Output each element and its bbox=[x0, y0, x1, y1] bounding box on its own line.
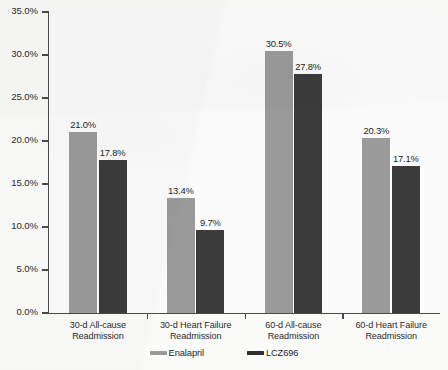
grouped-bar-chart: 0.0%5.0%10.0%15.0%20.0%25.0%30.0%35.0% 2… bbox=[0, 0, 448, 370]
bar-enalapril-1: 13.4% bbox=[167, 198, 195, 313]
bar-lcz696-3: 17.1% bbox=[392, 166, 420, 313]
y-axis-tick-label: 10.0% bbox=[11, 220, 38, 231]
y-axis-tick-label: 0.0% bbox=[17, 306, 38, 317]
legend-item-lcz696[interactable]: LCZ696 bbox=[247, 348, 298, 358]
x-axis-category-label: 30-d Heart FailureReadmission bbox=[147, 320, 245, 343]
legend-item-label: LCZ696 bbox=[266, 348, 298, 358]
x-axis-separator-tick bbox=[342, 313, 343, 319]
bar-value-label: 20.3% bbox=[363, 125, 389, 136]
bar-value-label: 17.8% bbox=[100, 147, 126, 158]
bar-value-label: 13.4% bbox=[168, 185, 194, 196]
y-axis-tick-label: 20.0% bbox=[11, 134, 38, 145]
x-axis-category-label: 60-d All-causeReadmission bbox=[245, 320, 343, 343]
bar-value-label: 30.5% bbox=[266, 38, 292, 49]
bar-lcz696-2: 27.8% bbox=[294, 74, 322, 313]
bar-enalapril-2: 30.5% bbox=[265, 51, 293, 313]
y-axis-tick-label: 15.0% bbox=[11, 177, 38, 188]
x-axis-category-label-line: Readmission bbox=[245, 331, 343, 342]
x-axis-separator-tick bbox=[147, 313, 148, 319]
x-axis-separator-tick bbox=[245, 313, 246, 319]
y-axis-line bbox=[48, 11, 49, 314]
bar-enalapril-3: 20.3% bbox=[362, 138, 390, 313]
chart-legend: EnalaprilLCZ696 bbox=[0, 348, 448, 358]
x-axis-category-label-line: Readmission bbox=[49, 331, 147, 342]
legend-item-enalapril[interactable]: Enalapril bbox=[150, 348, 204, 358]
x-axis-category-label-line: Readmission bbox=[342, 331, 440, 342]
bar-lcz696-0: 17.8% bbox=[99, 160, 127, 313]
x-axis-category-label-line: Readmission bbox=[147, 331, 245, 342]
bar-value-label: 9.7% bbox=[200, 217, 221, 228]
x-axis-category-label: 60-d Heart FailureReadmission bbox=[342, 320, 440, 343]
bar-lcz696-1: 9.7% bbox=[196, 230, 224, 313]
x-axis-category-label-line: 30-d All-cause bbox=[49, 320, 147, 331]
bar-enalapril-0: 21.0% bbox=[69, 132, 97, 313]
bar-value-label: 21.0% bbox=[70, 119, 96, 130]
y-axis-tick-label: 35.0% bbox=[11, 5, 38, 16]
x-axis-category-label: 30-d All-causeReadmission bbox=[49, 320, 147, 343]
x-axis-category-label-line: 30-d Heart Failure bbox=[147, 320, 245, 331]
x-axis-category-label-line: 60-d Heart Failure bbox=[342, 320, 440, 331]
y-axis-tick-label: 25.0% bbox=[11, 91, 38, 102]
bar-value-label: 27.8% bbox=[295, 61, 321, 72]
y-axis-tick-label: 5.0% bbox=[17, 263, 38, 274]
legend-line-swatch-icon bbox=[247, 351, 264, 354]
legend-item-label: Enalapril bbox=[169, 348, 204, 358]
legend-line-swatch-icon bbox=[150, 351, 167, 354]
x-axis-category-label-line: 60-d All-cause bbox=[245, 320, 343, 331]
y-axis-tick-label: 30.0% bbox=[11, 48, 38, 59]
bar-value-label: 17.1% bbox=[393, 153, 419, 164]
